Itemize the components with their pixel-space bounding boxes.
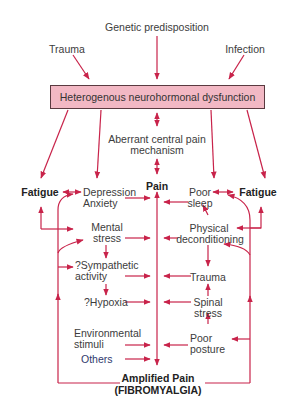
activity-label: activity <box>75 271 107 283</box>
aberrant-pain-label-line2: mechanism <box>102 145 212 157</box>
trauma-right-label: Trauma <box>188 272 228 284</box>
trauma-cause-label: Trauma <box>42 44 92 56</box>
neurohormonal-dysfunction-box: Heterogenous neurohormonal dysfunction <box>50 85 265 109</box>
infection-cause-label: Infection <box>218 44 272 56</box>
fibromyalgia-label: (FIBROMYALGIA) <box>110 385 206 397</box>
fatigue-left-label: Fatigue <box>18 187 62 199</box>
others-label: Others <box>81 354 113 366</box>
poor-sleep-label-line2: sleep <box>185 198 215 210</box>
fibromyalgia-diagram-arrows <box>0 0 285 403</box>
pain-label: Pain <box>140 181 174 193</box>
hypoxia-label: ?Hypoxia <box>84 297 128 309</box>
stress-label: stress <box>82 233 132 245</box>
deconditioning-label: deconditioning <box>175 234 245 246</box>
spinal-stress-label: stress <box>190 308 226 320</box>
poor-posture-label-line2: posture <box>190 344 225 356</box>
amplified-pain-label: Amplified Pain <box>110 373 206 385</box>
stimuli-label: stimuli <box>74 339 104 351</box>
genetic-predisposition-label: Genetic predisposition <box>95 22 219 34</box>
fatigue-right-label: Fatigue <box>236 187 280 199</box>
anxiety-label: Anxiety <box>83 198 117 210</box>
